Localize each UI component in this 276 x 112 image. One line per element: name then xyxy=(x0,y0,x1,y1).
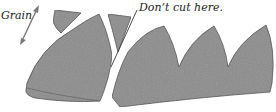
scalloped-strip xyxy=(112,25,273,107)
dont-cut-label: Don’t cut here. xyxy=(139,2,223,13)
diagram-canvas xyxy=(0,0,276,112)
left-curved-piece xyxy=(26,14,112,102)
cutting-diagram: Grain Don’t cut here. xyxy=(0,0,276,112)
grain-label: Grain xyxy=(1,10,32,21)
middle-sliver xyxy=(108,14,131,52)
